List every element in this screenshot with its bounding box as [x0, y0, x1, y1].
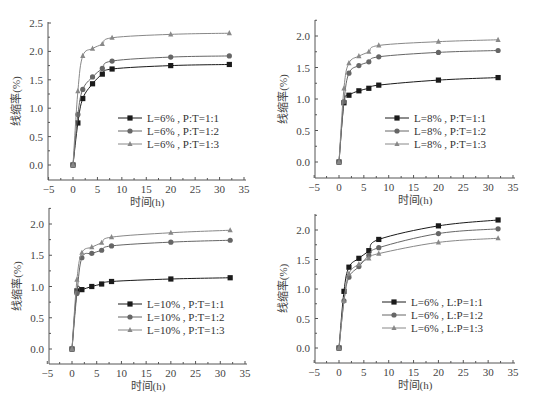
figure-caption-blurred — [150, 392, 450, 402]
square-marker-icon — [436, 78, 441, 83]
legend-label: L=8% , P:T=1:2 — [414, 125, 486, 137]
square-marker-icon — [228, 275, 233, 280]
y-axis-label: 线缩率(%) — [9, 76, 23, 126]
x-axis-label: 时间(h) — [398, 379, 433, 392]
x-tick-label: 20 — [433, 181, 445, 193]
chart-panel-top-left: −5051015202530350.00.51.01.52.02.5时间(h)线… — [9, 17, 250, 209]
x-tick-label: 20 — [433, 366, 445, 378]
x-tick-label: 35 — [240, 367, 252, 379]
square-marker-icon — [127, 115, 132, 120]
x-tick-label: 5 — [94, 367, 100, 379]
legend-label: L=6% , L:P=1:3 — [411, 322, 483, 334]
y-tick-label: 0.0 — [296, 342, 310, 354]
circle-marker-icon — [394, 128, 399, 133]
legend-label: L=8% , P:T=1:3 — [414, 138, 486, 150]
x-tick-label: 15 — [141, 183, 153, 195]
x-tick-label: 10 — [383, 366, 395, 378]
legend-label: L=10% , P:T=1:3 — [147, 324, 225, 336]
circle-marker-icon — [100, 66, 105, 71]
x-tick-label: 20 — [165, 367, 177, 379]
x-tick-label: 5 — [95, 183, 101, 195]
x-tick-label: 35 — [239, 183, 251, 195]
x-tick-label: 25 — [190, 183, 202, 195]
x-tick-label: 10 — [116, 367, 128, 379]
y-tick-label: 2.5 — [29, 17, 43, 29]
square-marker-icon — [168, 276, 173, 281]
y-tick-label: 0.0 — [296, 156, 310, 168]
circle-marker-icon — [376, 245, 381, 250]
square-marker-icon — [89, 284, 94, 289]
y-tick-label: 1.0 — [30, 281, 44, 293]
circle-marker-icon — [109, 58, 114, 63]
square-marker-icon — [495, 217, 500, 222]
square-marker-icon — [168, 63, 173, 68]
circle-marker-icon — [89, 251, 94, 256]
x-tick-label: −5 — [308, 181, 320, 193]
triangle-marker-icon — [80, 53, 85, 58]
x-tick-label: 15 — [408, 366, 420, 378]
y-tick-label: 0.5 — [296, 125, 310, 137]
square-marker-icon — [346, 93, 351, 98]
chart-panel-bottom-right: −5051015202530350.00.51.01.52.0时间(h)线缩率(… — [276, 214, 519, 392]
y-tick-label: 1.0 — [296, 283, 310, 295]
square-marker-icon — [391, 299, 396, 304]
triangle-marker-icon — [495, 235, 500, 240]
y-tick-label: 1.5 — [30, 249, 44, 261]
triangle-marker-icon — [75, 88, 80, 93]
square-marker-icon — [346, 265, 351, 270]
legend-label: L=6% , L:P=1:2 — [411, 309, 483, 321]
square-marker-icon — [366, 86, 371, 91]
circle-marker-icon — [227, 53, 232, 58]
y-tick-label: 2.0 — [296, 30, 310, 42]
y-tick-label: 1.5 — [29, 74, 43, 86]
legend-label: L=6% , P:T=1:3 — [147, 138, 219, 150]
square-marker-icon — [394, 115, 399, 120]
x-tick-label: 15 — [408, 181, 420, 193]
circle-marker-icon — [346, 71, 351, 76]
square-marker-icon — [227, 62, 232, 67]
chart-grid: −5051015202530350.00.51.01.52.02.5时间(h)线… — [0, 0, 535, 406]
x-tick-label: 35 — [508, 181, 520, 193]
square-marker-icon — [376, 237, 381, 242]
x-tick-label: 25 — [190, 367, 202, 379]
square-marker-icon — [90, 81, 95, 86]
y-tick-label: 0.0 — [29, 159, 43, 171]
x-tick-label: 0 — [69, 367, 75, 379]
x-tick-label: 30 — [215, 367, 227, 379]
square-marker-icon — [495, 75, 500, 80]
circle-marker-icon — [127, 314, 132, 319]
square-marker-icon — [356, 256, 361, 261]
circle-marker-icon — [376, 54, 381, 59]
x-tick-label: 30 — [214, 183, 226, 195]
square-marker-icon — [109, 66, 114, 71]
square-marker-icon — [127, 301, 132, 306]
legend-label: L=8% , P:T=1:1 — [414, 112, 486, 124]
y-tick-label: 2.0 — [30, 218, 44, 230]
square-marker-icon — [100, 72, 105, 77]
x-tick-label: 15 — [141, 367, 153, 379]
x-tick-label: 25 — [458, 181, 470, 193]
x-axis-label: 时间(h) — [398, 194, 433, 207]
y-tick-label: 0.0 — [30, 343, 44, 355]
x-tick-label: 5 — [361, 181, 367, 193]
y-tick-label: 0.5 — [29, 131, 43, 143]
y-axis-label: 线缩率(%) — [10, 261, 24, 311]
square-marker-icon — [436, 223, 441, 228]
y-tick-label: 0.5 — [296, 313, 310, 325]
legend-label: L=10% , P:T=1:1 — [147, 298, 225, 310]
x-tick-label: 20 — [165, 183, 177, 195]
x-tick-label: 10 — [116, 183, 128, 195]
circle-marker-icon — [495, 226, 500, 231]
y-axis-label: 线缩率(%) — [276, 263, 290, 313]
x-axis-label: 时间(h) — [130, 196, 165, 209]
x-tick-label: 30 — [483, 366, 495, 378]
x-tick-label: 0 — [336, 181, 342, 193]
circle-marker-icon — [228, 238, 233, 243]
legend-label: L=6% , P:T=1:1 — [147, 112, 219, 124]
square-marker-icon — [376, 83, 381, 88]
square-marker-icon — [79, 287, 84, 292]
x-tick-label: 10 — [383, 181, 395, 193]
circle-marker-icon — [436, 50, 441, 55]
x-tick-label: 30 — [483, 181, 495, 193]
x-tick-label: 5 — [361, 366, 367, 378]
